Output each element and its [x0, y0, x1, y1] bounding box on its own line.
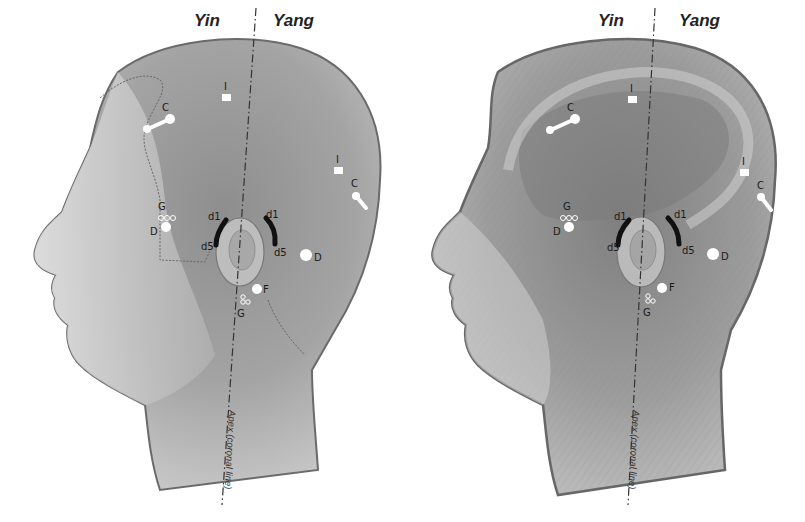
svg-text:D: D [314, 252, 322, 263]
svg-text:I: I [742, 156, 745, 167]
svg-text:d5: d5 [201, 241, 214, 252]
svg-text:d5: d5 [682, 245, 695, 256]
head-diagram-skin: Yin Yang Apex (coronal line) C I I [0, 0, 402, 522]
svg-text:d1: d1 [614, 211, 627, 222]
svg-text:D: D [721, 251, 729, 262]
svg-text:I: I [630, 83, 633, 94]
head-muscle-svg: Yin Yang Apex (coronal line) C I I C [403, 0, 805, 522]
yang-label: Yang [679, 11, 721, 30]
svg-text:d5: d5 [274, 247, 287, 258]
svg-text:d1: d1 [208, 211, 221, 222]
svg-text:C: C [567, 102, 574, 113]
yang-label: Yang [273, 11, 315, 30]
svg-text:d1: d1 [674, 209, 687, 220]
svg-text:d1: d1 [266, 209, 279, 220]
yin-label: Yin [598, 11, 624, 30]
head-diagram-muscle: Yin Yang Apex (coronal line) C I I C [403, 0, 805, 522]
svg-text:D: D [553, 226, 561, 237]
svg-text:d5: d5 [607, 242, 620, 253]
svg-text:G: G [237, 308, 245, 319]
svg-text:F: F [263, 284, 269, 295]
svg-text:I: I [336, 154, 339, 165]
head-skin-svg: Yin Yang Apex (coronal line) C I I [0, 0, 402, 522]
svg-text:G: G [158, 201, 166, 212]
yin-label: Yin [194, 11, 220, 30]
svg-text:G: G [643, 307, 651, 318]
svg-text:C: C [162, 102, 169, 113]
svg-text:C: C [757, 180, 764, 191]
svg-text:F: F [669, 282, 675, 293]
svg-text:C: C [351, 178, 358, 189]
ear-inner [229, 230, 255, 270]
svg-text:I: I [224, 81, 227, 92]
svg-text:D: D [150, 226, 158, 237]
svg-text:G: G [563, 201, 571, 212]
